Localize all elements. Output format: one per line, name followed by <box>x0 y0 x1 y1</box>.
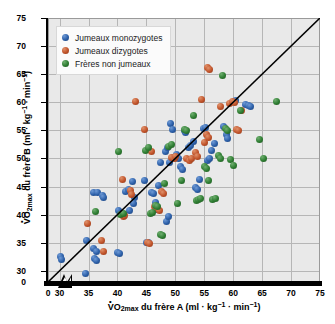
x-tick-label: 30 <box>55 288 64 298</box>
grid-line-horizontal <box>48 271 320 272</box>
grid-line-horizontal <box>48 18 320 19</box>
data-point-nonj <box>174 200 181 207</box>
x-tick-mark <box>233 282 234 286</box>
data-point-di <box>100 248 107 255</box>
legend-label-di: Jumeaux dizygotes <box>75 46 148 56</box>
y-axis-line <box>46 18 48 282</box>
data-point-nonj <box>237 107 244 114</box>
data-point-mono <box>100 194 107 201</box>
scatter-plot-figure: 0303540455055606570750303540455055606570… <box>0 0 335 324</box>
data-point-nonj <box>260 155 267 162</box>
data-point-di <box>146 240 153 247</box>
y-tick-mark <box>41 46 46 47</box>
x-tick-mark <box>117 282 118 286</box>
data-point-nonj <box>205 177 212 184</box>
data-point-mono <box>194 186 201 193</box>
data-point-nonj <box>178 177 185 184</box>
data-point-nonj <box>203 165 210 172</box>
data-point-mono <box>179 166 186 173</box>
data-point-mono <box>129 178 136 185</box>
data-point-nonj <box>190 112 197 119</box>
data-point-mono <box>206 155 213 162</box>
data-point-di <box>205 134 212 141</box>
legend-item-di: Jumeaux dizygotes <box>62 44 162 57</box>
data-point-nonj <box>230 162 237 169</box>
data-point-mono <box>58 256 65 263</box>
x-tick-label: 45 <box>142 288 151 298</box>
data-point-mono <box>130 200 137 207</box>
y-axis-title: VO2max du frère B (ml · kg−1 · min−1) <box>21 28 32 268</box>
x-tick-label: 60 <box>228 288 237 298</box>
legend-marker-mono-icon <box>62 34 69 41</box>
data-point-nonj <box>219 72 226 79</box>
y-tick-mark <box>41 130 46 131</box>
x-tick-label: 70 <box>286 288 295 298</box>
x-tick-mark <box>89 282 90 286</box>
data-point-nonj <box>159 232 166 239</box>
x-axis-title: VO2max du frère A (ml · kg−1 · min−1) <box>48 301 320 312</box>
x-tick-label: 55 <box>200 288 209 298</box>
y-tick-mark <box>41 18 46 19</box>
x-tick-label: 50 <box>171 288 180 298</box>
x-tick-mark <box>262 282 263 286</box>
data-point-di <box>141 126 148 133</box>
legend-label-nonj: Frères non jumeaux <box>75 59 151 69</box>
data-point-mono <box>224 135 231 142</box>
data-point-di <box>119 176 126 183</box>
data-point-nonj <box>168 141 175 148</box>
data-point-di <box>206 66 213 73</box>
x-tick-mark <box>146 282 147 286</box>
data-point-mono <box>141 177 148 184</box>
x-tick-label: 0 <box>46 288 51 298</box>
legend-marker-nonj-icon <box>62 60 69 67</box>
data-point-mono <box>202 124 209 131</box>
x-tick-mark <box>60 282 61 286</box>
y-tick-mark <box>41 215 46 216</box>
x-tick-label: 40 <box>113 288 122 298</box>
legend-label-mono: Jumeaux monozygotes <box>75 33 162 43</box>
data-point-mono <box>157 159 164 166</box>
data-point-mono <box>165 213 172 220</box>
data-point-di <box>217 103 224 110</box>
data-point-di <box>84 220 91 227</box>
x-tick-mark <box>175 282 176 286</box>
y-tick-mark <box>41 187 46 188</box>
data-point-mono <box>247 103 254 110</box>
legend-marker-di-icon <box>62 47 69 54</box>
data-point-mono <box>208 147 215 154</box>
y-tick-mark <box>41 271 46 272</box>
legend-item-nonj: Frères non jumeaux <box>62 57 162 70</box>
data-point-nonj <box>273 98 280 105</box>
data-point-nonj <box>145 144 152 151</box>
x-axis-line <box>44 281 322 286</box>
x-tick-mark <box>320 282 321 286</box>
data-point-mono <box>150 190 157 197</box>
x-tick-mark <box>291 282 292 286</box>
data-point-mono <box>93 257 100 264</box>
legend: Jumeaux monozygotes Jumeaux dizygotes Fr… <box>56 26 171 75</box>
data-point-mono <box>211 140 218 147</box>
data-point-nonj <box>115 148 122 155</box>
data-point-nonj <box>224 127 231 134</box>
data-point-mono <box>116 250 123 257</box>
data-point-nonj <box>197 195 204 202</box>
grid-line-horizontal <box>48 215 320 216</box>
data-point-nonj <box>92 208 99 215</box>
data-point-nonj <box>212 195 219 202</box>
data-point-nonj <box>183 127 190 134</box>
data-point-mono <box>82 270 89 277</box>
data-point-nonj <box>217 155 224 162</box>
y-tick-mark <box>41 102 46 103</box>
y-tick-label: 0 <box>21 277 26 287</box>
data-point-mono <box>190 138 197 145</box>
y-tick-mark <box>41 243 46 244</box>
x-tick-label: 75 <box>315 288 324 298</box>
data-point-mono <box>83 237 90 244</box>
x-tick-label: 65 <box>257 288 266 298</box>
y-tick-mark <box>41 74 46 75</box>
y-tick-mark <box>41 158 46 159</box>
data-point-nonj <box>120 210 127 217</box>
x-tick-label: 35 <box>84 288 93 298</box>
data-point-di <box>235 127 242 134</box>
data-point-di <box>160 190 167 197</box>
